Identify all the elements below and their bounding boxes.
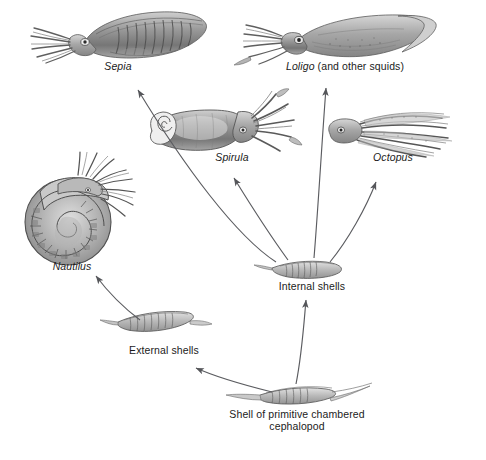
arrow-internal-to-octopus [330, 182, 376, 262]
label-loligo: Loligo (and other squids) [265, 60, 425, 72]
nautilus-shell-illustration [25, 152, 135, 265]
label-primitive-shell: Shell of primitive chambered cephalopod [212, 408, 382, 432]
squid-illustration [234, 15, 436, 65]
arrow-primitive-to-internal [296, 300, 306, 384]
spirula-illustration [150, 89, 302, 151]
label-sepia: Sepia [78, 60, 158, 72]
label-octopus: Octopus [353, 151, 433, 163]
primitive-chambered-shell-illustration [226, 383, 372, 404]
label-internal-shells: Internal shells [252, 280, 372, 292]
label-loligo-suffix: (and other squids) [315, 60, 404, 72]
internal-shell-illustration [254, 261, 341, 278]
arrow-internal-to-spirula [234, 178, 288, 260]
external-shell-illustration [100, 311, 212, 331]
arrow-external-to-nautilus [96, 276, 140, 320]
arrow-primitive-to-external [196, 368, 272, 392]
cephalopod-evolution-diagram: Sepia Loligo (and other squids) Spirula … [0, 0, 486, 460]
arrow-internal-to-sepia [138, 90, 276, 262]
label-external-shells: External shells [104, 344, 224, 356]
label-spirula: Spirula [192, 151, 272, 163]
arrow-internal-to-loligo [314, 88, 326, 258]
label-nautilus: Nautilus [32, 260, 112, 272]
label-loligo-genus: Loligo [286, 60, 315, 72]
cuttlefish-illustration [31, 12, 206, 63]
